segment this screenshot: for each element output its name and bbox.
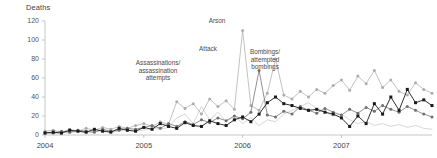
data-point-marker <box>348 108 351 111</box>
data-point-marker <box>159 127 162 130</box>
deaths-time-series-chart: Deaths 020406080100120 2004200520062007 … <box>0 0 437 158</box>
data-point-marker <box>233 118 236 121</box>
data-point-marker <box>167 122 170 125</box>
series-1 <box>44 69 434 135</box>
data-point-marker <box>365 122 368 125</box>
data-point-marker <box>373 102 376 105</box>
data-point-marker <box>216 105 219 108</box>
data-point-marker <box>340 114 343 117</box>
data-series <box>44 29 434 135</box>
data-point-marker <box>249 111 252 114</box>
data-point-marker <box>151 124 154 127</box>
data-point-marker <box>266 92 269 95</box>
y-tick-label: 120 <box>17 17 39 24</box>
data-point-marker <box>258 113 261 116</box>
data-point-marker <box>274 115 277 118</box>
data-point-marker <box>356 75 359 78</box>
data-point-marker <box>431 104 434 107</box>
data-point-marker <box>151 128 154 131</box>
data-point-marker <box>68 129 71 132</box>
data-point-marker <box>134 130 137 133</box>
data-point-marker <box>406 105 409 108</box>
data-point-marker <box>109 131 112 134</box>
data-point-marker <box>323 107 326 110</box>
y-tick-label: 80 <box>17 55 39 62</box>
y-tick-label: 0 <box>17 131 39 138</box>
data-point-marker <box>332 84 335 87</box>
data-point-marker <box>348 89 351 92</box>
data-point-marker <box>200 125 203 128</box>
data-point-marker <box>381 104 384 107</box>
data-point-marker <box>332 113 335 116</box>
data-point-marker <box>225 124 228 127</box>
axes <box>42 21 432 138</box>
data-point-marker <box>44 132 47 135</box>
data-point-marker <box>192 124 195 127</box>
data-point-marker <box>60 132 63 135</box>
data-point-marker <box>266 101 269 104</box>
data-point-marker <box>93 128 96 131</box>
data-point-marker <box>389 96 392 99</box>
data-point-marker <box>175 100 178 103</box>
data-point-marker <box>126 129 129 132</box>
data-point-marker <box>291 97 294 100</box>
data-point-marker <box>381 86 384 89</box>
x-tick-label: 2005 <box>121 141 167 150</box>
data-point-marker <box>348 125 351 128</box>
data-point-marker <box>52 131 55 134</box>
data-point-marker <box>307 109 310 112</box>
data-point-marker <box>315 88 318 91</box>
data-point-marker <box>389 78 392 81</box>
data-point-marker <box>266 114 269 117</box>
data-point-marker <box>291 104 294 107</box>
data-point-marker <box>299 107 302 110</box>
data-point-marker <box>159 122 162 125</box>
data-point-marker <box>225 99 228 102</box>
series-line <box>45 70 432 133</box>
data-point-marker <box>381 113 384 116</box>
data-point-marker <box>85 127 88 130</box>
data-point-marker <box>85 131 88 134</box>
data-point-marker <box>406 94 409 97</box>
data-point-marker <box>422 113 425 116</box>
annotation-label: Attack <box>191 45 225 53</box>
data-point-marker <box>299 90 302 93</box>
data-point-marker <box>208 119 211 122</box>
data-point-marker <box>414 101 417 104</box>
x-tick-label: 2004 <box>22 141 68 150</box>
data-point-marker <box>340 116 343 119</box>
annotation-label: Arson <box>200 17 234 25</box>
data-point-marker <box>431 115 434 118</box>
data-point-marker <box>282 102 285 105</box>
data-point-marker <box>200 113 203 116</box>
data-point-marker <box>241 29 244 32</box>
data-point-marker <box>134 124 137 127</box>
data-point-marker <box>323 111 326 114</box>
data-point-marker <box>307 96 310 99</box>
data-point-marker <box>192 102 195 105</box>
data-point-marker <box>183 121 186 124</box>
data-point-marker <box>315 112 318 115</box>
y-tick-label: 20 <box>17 112 39 119</box>
data-point-marker <box>356 112 359 115</box>
data-point-marker <box>373 69 376 72</box>
data-point-marker <box>101 130 104 133</box>
data-point-marker <box>373 110 376 113</box>
annotation-label: Assassinations/ assassination attempts <box>126 59 190 82</box>
data-point-marker <box>167 125 170 128</box>
data-point-marker <box>274 96 277 99</box>
data-point-marker <box>200 118 203 121</box>
annotation-label: Bombings/ attempted bombings <box>240 48 290 71</box>
data-point-marker <box>93 131 96 134</box>
data-point-marker <box>365 106 368 109</box>
data-point-marker <box>142 126 145 129</box>
x-tick-label: 2007 <box>318 141 364 150</box>
data-point-marker <box>233 108 236 111</box>
data-point-marker <box>323 92 326 95</box>
data-point-marker <box>208 97 211 100</box>
data-point-marker <box>389 108 392 111</box>
data-point-marker <box>241 115 244 118</box>
data-point-marker <box>365 82 368 85</box>
data-point-marker <box>76 130 79 133</box>
data-point-marker <box>398 90 401 93</box>
